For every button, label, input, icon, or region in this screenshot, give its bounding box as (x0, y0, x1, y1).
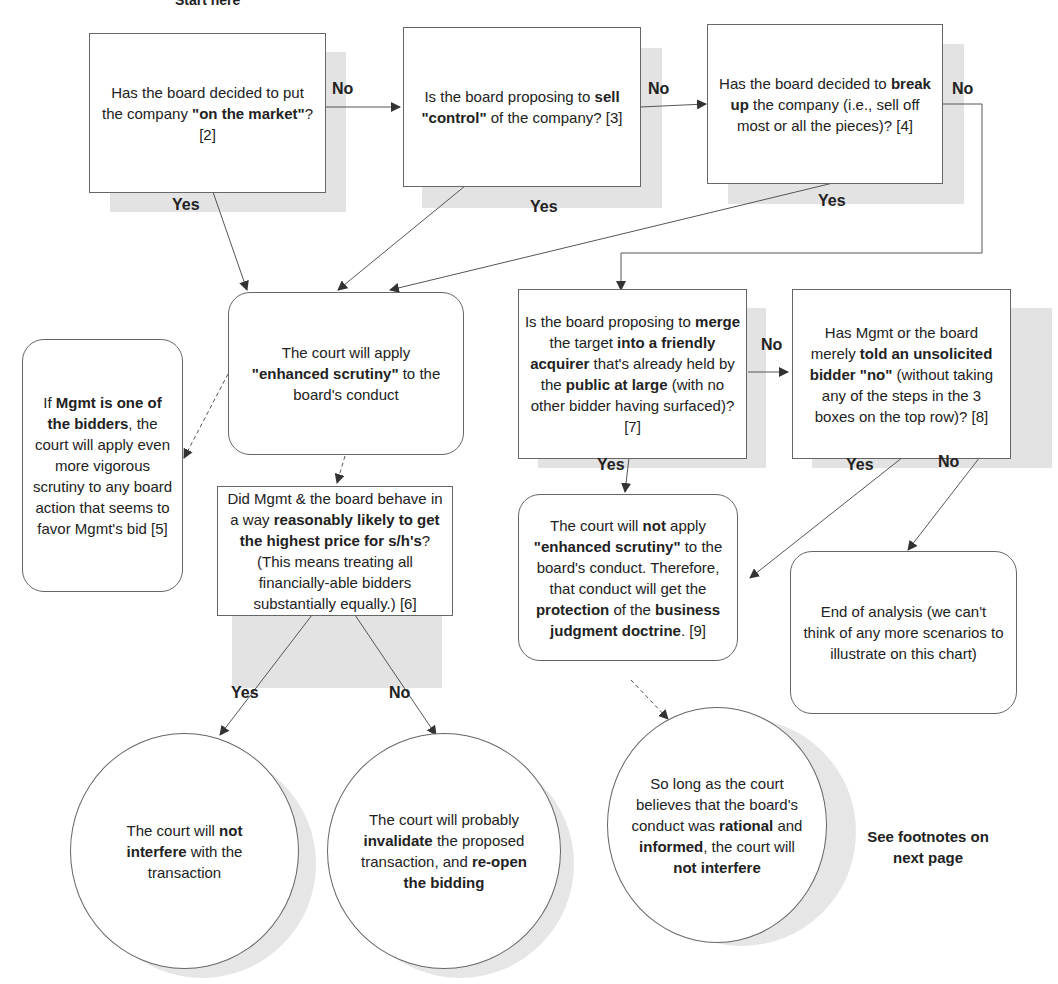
question-on-the-market: Has the board decided to put the company… (89, 33, 326, 193)
edge-label-yes: Yes (818, 192, 846, 210)
edge-label-no: No (761, 336, 782, 354)
edge-label-yes: Yes (172, 196, 200, 214)
outcome-invalidate: The court will probably invalidate the p… (327, 733, 561, 969)
node-text: Has the board decided to put the company… (100, 82, 315, 145)
question-highest-price: Did Mgmt & the board behave in a way rea… (217, 486, 453, 616)
edge-label-no: No (389, 684, 410, 702)
node-text: Has Mgmt or the board merely told an uns… (801, 322, 1002, 427)
node-text: Is the board proposing to sell "control"… (414, 86, 630, 128)
node-text: If Mgmt is one of the bidders, the court… (31, 392, 174, 539)
edge-label-yes: Yes (597, 456, 625, 474)
question-sell-control: Is the board proposing to sell "control"… (403, 27, 641, 187)
node-text: End of analysis (we can't think of any m… (803, 601, 1004, 664)
enhanced-scrutiny-box: The court will apply "enhanced scrutiny"… (228, 292, 464, 455)
edge-label-no: No (952, 80, 973, 98)
footnote-note: See footnotes on next page (858, 826, 998, 868)
question-break-up: Has the board decided to break up the co… (707, 24, 943, 184)
mgmt-bidder-box: If Mgmt is one of the bidders, the court… (22, 339, 183, 592)
edge-label-yes: Yes (231, 684, 259, 702)
node-text: The court will not interfere with the tr… (103, 820, 266, 883)
node-text: Has the board decided to break up the co… (718, 73, 932, 136)
node-text: The court will apply "enhanced scrutiny"… (247, 342, 445, 405)
node-text: So long as the court believes that the b… (630, 773, 804, 878)
edge-label-no: No (332, 80, 353, 98)
node-text: The court will not apply "enhanced scrut… (523, 515, 733, 641)
outcome-not-interfere: The court will not interfere with the tr… (70, 733, 299, 969)
question-told-no: Has Mgmt or the board merely told an uns… (792, 289, 1011, 459)
end-of-analysis-box: End of analysis (we can't think of any m… (790, 551, 1017, 714)
question-merge: Is the board proposing to merge the targ… (518, 289, 747, 459)
edge-label-yes: Yes (530, 198, 558, 216)
edge-label-yes: Yes (846, 456, 874, 474)
no-enhanced-scrutiny-box: The court will not apply "enhanced scrut… (518, 494, 738, 661)
node-text: The court will probably invalidate the p… (348, 809, 540, 893)
node-text: Did Mgmt & the board behave in a way rea… (224, 488, 446, 614)
outcome-rational: So long as the court believes that the b… (607, 707, 827, 943)
edge-label-no: No (938, 453, 959, 471)
edge-label-no: No (648, 80, 669, 98)
node-text: Is the board proposing to merge the targ… (523, 311, 742, 437)
